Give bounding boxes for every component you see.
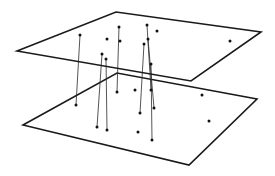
top-point <box>106 38 109 41</box>
top-point <box>118 26 121 29</box>
top-point <box>150 63 153 66</box>
top-plane-outline <box>17 12 261 81</box>
connection-line <box>106 59 107 130</box>
bottom-plane <box>23 73 257 165</box>
connection-lines <box>76 25 154 140</box>
top-point <box>229 40 232 43</box>
bottom-plane-points <box>75 89 211 142</box>
top-point <box>156 30 159 33</box>
connection-line <box>147 25 151 90</box>
top-point <box>101 53 104 56</box>
bottom-plane-outline <box>23 73 257 165</box>
bottom-point <box>150 89 153 92</box>
bottom-point <box>151 139 154 142</box>
bottom-point <box>134 89 137 92</box>
bottom-point <box>116 91 119 94</box>
top-point <box>146 24 149 27</box>
top-point <box>143 43 146 46</box>
bottom-point <box>201 94 204 97</box>
bottom-point <box>75 104 78 107</box>
top-point <box>105 58 108 61</box>
bottom-point <box>208 120 211 123</box>
bottom-point <box>153 107 156 110</box>
top-point <box>119 40 122 43</box>
bottom-point <box>137 131 140 134</box>
top-plane <box>17 12 261 81</box>
connection-line <box>117 27 119 92</box>
top-point <box>147 38 150 41</box>
two-plane-diagram <box>0 0 275 176</box>
bottom-point <box>139 112 142 115</box>
bottom-point <box>106 129 109 132</box>
top-point <box>79 34 82 37</box>
bottom-point <box>96 126 99 129</box>
connection-line <box>151 64 152 140</box>
